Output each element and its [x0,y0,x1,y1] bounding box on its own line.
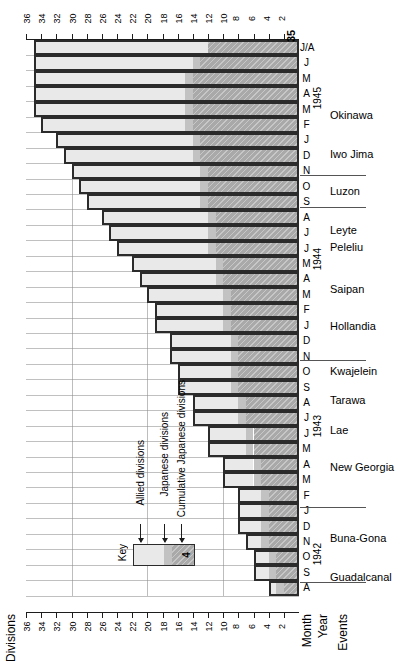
axis-tick [72,34,73,39]
axis-tick [132,34,133,39]
event-separator [300,360,366,361]
bar-segment-japanese [261,488,269,503]
bar-row-divider [26,596,299,597]
axis-tick-label: 18 [159,13,168,23]
chart-bar-row [26,519,299,534]
event-label: Buna-Gona [330,533,386,544]
axis-tick-label: 16 [174,621,183,631]
chart-bar-row [26,241,299,256]
year-label: 1944 [312,248,327,270]
bar-segment-japanese [276,581,284,596]
chart-bar-row [26,318,299,333]
peak-total-label: 35 [285,30,297,42]
axis-tick-label: 36 [23,621,32,631]
footer-month-label: Month [300,614,314,647]
year-label: 1945 [312,87,327,109]
bar-segment-cumulative-japanese [208,164,299,179]
bar-segment-cumulative-japanese [200,133,299,148]
axis-tick [72,613,73,618]
axis-tick [254,613,255,618]
bar-segment-cumulative-japanese [231,287,299,302]
chart-bar-row [26,210,299,225]
axis-tick-label: 4 [263,624,272,629]
axis-tick-label: 22 [129,13,138,23]
legend-label-allied: Allied divisions [136,440,146,506]
bar-segment-allied [193,395,239,410]
legend-arrow-cumulative [181,524,182,542]
bar-segment-allied [34,40,208,55]
event-separator [300,507,366,508]
bar-segment-cumulative-japanese [223,256,299,271]
bar-segment-allied [238,519,261,534]
axis-tick [56,613,57,618]
bar-segment-allied [34,71,186,86]
bar-segment-cumulative-japanese [231,303,299,318]
event-label: Okinawa [330,110,373,121]
axis-tick [147,34,148,39]
axis-tick-label: 8 [232,624,241,629]
bar-segment-japanese [185,71,193,86]
events-axis: OkinawaIwo JimaLuzonLeytePeleliuSaipanHo… [330,40,418,596]
legend-swatch-box: 4 [133,544,195,566]
chart-bar-row [26,364,299,379]
legend-label-cumulative: Cumulative Japanese divisions [177,380,187,517]
chart-bar-row [26,225,299,240]
legend-arrow-japanese [164,524,165,542]
chart-bar-row [26,333,299,348]
bar-segment-allied [109,225,208,240]
chart-bar-row [26,380,299,395]
bar-segment-cumulative-japanese [254,442,300,457]
axis-tick-label: 34 [38,621,47,631]
axis-tick-label: 6 [248,624,257,629]
bar-segment-allied [238,488,261,503]
axis-tick [193,613,194,618]
axis-tick [56,34,57,39]
axis-tick-label: 24 [114,621,123,631]
axis-tick-label: 28 [83,13,92,23]
bar-segment-allied [102,210,208,225]
bar-segment-allied [34,86,186,101]
bar-segment-allied [155,318,223,333]
bar-segment-cumulative-japanese [238,333,299,348]
event-label: Saipan [330,284,364,295]
bar-segment-allied [238,503,261,518]
chart-bar-row [26,40,299,55]
bar-segment-cumulative-japanese [254,426,300,441]
axis-tick-label: 32 [53,621,62,631]
bar-segment-japanese [216,272,224,287]
bar-segment-cumulative-japanese [246,411,299,426]
bar-segment-cumulative-japanese [238,349,299,364]
bar-segment-cumulative-japanese [276,565,299,580]
bar-segment-cumulative-japanese [208,40,299,55]
axis-tick [41,613,42,618]
footer-year-label: Year [316,614,330,638]
bar-segment-allied [147,287,223,302]
axis-tick-label: 36 [23,13,32,23]
chart-bar-row [26,179,299,194]
axis-tick [117,613,118,618]
axis-tick [223,613,224,618]
bar-segment-cumulative-japanese [193,86,299,101]
bar-segment-allied [132,256,215,271]
bar-segment-japanese [200,179,208,194]
bar-segment-allied [155,303,223,318]
bar-segment-cumulative-japanese [216,241,299,256]
chart-bar-row [26,164,299,179]
bar-segment-allied [254,565,269,580]
bar-segment-cumulative-japanese [269,503,299,518]
bar-segment-japanese [261,503,269,518]
axis-tick [178,613,179,618]
event-separator [300,207,366,208]
axis-tick [208,34,209,39]
bar-segment-japanese [261,519,269,534]
bar-segment-allied [269,581,277,596]
bar-segment-cumulative-japanese [276,550,299,565]
axis-tick-label: 14 [189,13,198,23]
chart-bar-row [26,55,299,70]
legend-swatch-japanese [164,545,172,565]
chart-bar-row [26,565,299,580]
axis-tick-label: 6 [248,16,257,21]
bar-segment-cumulative-japanese [238,364,299,379]
event-label: Tarawa [330,395,365,406]
axis-tick [178,34,179,39]
